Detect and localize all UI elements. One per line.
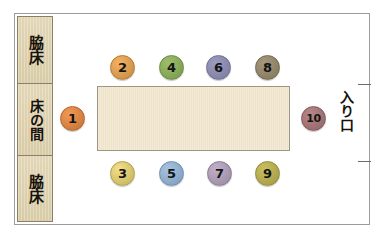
entrance-marker: 入り口 (338, 84, 372, 162)
seat-2[interactable]: 2 (110, 55, 135, 80)
seat-1[interactable]: 1 (60, 106, 85, 131)
seat-number-label: 7 (215, 166, 224, 181)
alcove-cell-tokonoma: 床の間 (18, 83, 52, 155)
seat-number-label: 1 (68, 111, 77, 126)
seat-number-label: 9 (263, 166, 272, 181)
seat-number-label: 4 (167, 60, 176, 75)
seat-5[interactable]: 5 (159, 161, 184, 186)
seat-number-label: 3 (118, 166, 127, 181)
seat-3[interactable]: 3 (110, 161, 135, 186)
seat-9[interactable]: 9 (255, 161, 280, 186)
seat-number-label: 5 (167, 166, 176, 181)
seat-10[interactable]: 10 (301, 106, 326, 131)
seat-4[interactable]: 4 (159, 55, 184, 80)
entrance-label: 入り口 (338, 90, 353, 132)
alcove-strip: 脇床 床の間 脇床 (17, 16, 53, 222)
seat-7[interactable]: 7 (207, 161, 232, 186)
seat-number-label: 6 (214, 60, 223, 75)
seat-number-label: 10 (306, 112, 320, 125)
alcove-label-waki-doko-upper: 脇床 (27, 35, 42, 65)
banquet-table (97, 86, 290, 151)
seat-6[interactable]: 6 (206, 55, 231, 80)
entrance-tick-top-icon (358, 84, 371, 85)
entrance-tick-bottom-icon (358, 161, 371, 162)
alcove-cell-waki-doko-upper: 脇床 (18, 17, 52, 83)
alcove-label-tokonoma: 床の間 (27, 99, 43, 141)
seat-8[interactable]: 8 (255, 55, 280, 80)
alcove-cell-waki-doko-lower: 脇床 (18, 155, 52, 221)
seat-number-label: 2 (118, 60, 127, 75)
seat-number-label: 8 (263, 60, 272, 75)
alcove-label-waki-doko-lower: 脇床 (27, 174, 42, 204)
